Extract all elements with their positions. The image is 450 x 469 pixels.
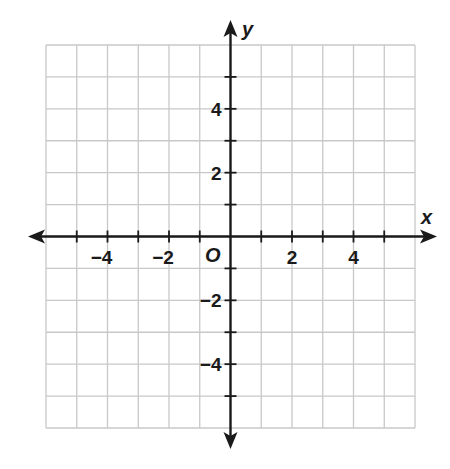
y-tick-label: −4 (200, 354, 222, 375)
x-tick-label: −2 (152, 247, 174, 268)
y-tick-label: 4 (211, 99, 222, 120)
coordinate-plane: −4−22442−2−4 x y O (0, 0, 450, 469)
origin-label: O (205, 244, 221, 266)
y-tick-label: 2 (211, 163, 222, 184)
axes (28, 20, 437, 449)
y-tick-label: −2 (200, 290, 222, 311)
x-tick-label: 4 (348, 247, 359, 268)
y-axis-label: y (241, 18, 254, 40)
x-tick-label: 2 (287, 247, 298, 268)
x-tick-label: −4 (91, 247, 113, 268)
x-axis-label: x (420, 206, 433, 228)
